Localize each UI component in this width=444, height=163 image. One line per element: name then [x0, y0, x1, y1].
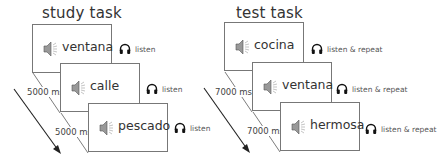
stimulus-word: ventana [62, 39, 113, 54]
stimulus-word: ventana [282, 77, 333, 92]
stimulus-word: cocina [254, 37, 294, 52]
instruction: listen & repeat [311, 43, 382, 55]
instruction-text: listen & repeat [352, 85, 407, 94]
headphones-icon [146, 83, 158, 95]
instruction-text: listen & repeat [381, 125, 436, 134]
speaker-icon [262, 78, 280, 96]
headphones-icon [119, 43, 131, 55]
panel-title: study task [42, 4, 122, 22]
instruction-text: listen [135, 45, 155, 54]
speaker-icon [42, 40, 60, 58]
stimulus-word: hermosa [310, 117, 365, 132]
headphones-icon [336, 83, 348, 95]
speaker-icon [234, 38, 252, 56]
instruction: listen [146, 83, 182, 95]
instruction-text: listen [162, 85, 182, 94]
trial-card: hermosa [280, 102, 360, 151]
stimulus-word: calle [90, 78, 119, 93]
instruction: listen [119, 43, 155, 55]
headphones-icon [311, 43, 323, 55]
speaker-icon [70, 79, 88, 97]
instruction: listen & repeat [336, 83, 407, 95]
headphones-icon [365, 123, 377, 135]
panel-title: test task [236, 4, 303, 22]
speaker-icon [290, 118, 308, 136]
instruction-text: listen & repeat [327, 45, 382, 54]
instruction: listen [174, 122, 210, 134]
headphones-icon [174, 122, 186, 134]
stimulus-word: pescado [118, 118, 170, 133]
instruction: listen & repeat [365, 123, 436, 135]
speaker-icon [98, 119, 116, 137]
interval-label: 7000 ms [214, 87, 253, 97]
trial-card: pescado [88, 103, 168, 152]
instruction-text: listen [190, 124, 210, 133]
